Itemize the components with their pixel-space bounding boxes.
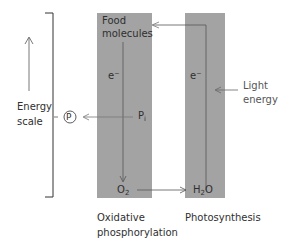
light-energy-label: Light energy [243, 80, 278, 106]
photosynthesis-electron-flow-line [153, 25, 206, 190]
oxygen-subscript: 2 [125, 189, 129, 197]
oxidative-electron-label: e⁻ [108, 70, 119, 82]
phosphate-symbol: P [66, 111, 71, 123]
food-label-line1: Food [102, 15, 153, 27]
oxygen-main: O [117, 184, 125, 195]
food-molecules-label: Food molecules [102, 15, 153, 40]
water-label: H2O [193, 184, 213, 199]
energy-label-line2: scale [17, 116, 52, 128]
pi-subscript: i [144, 115, 146, 123]
oxygen-label: O2 [117, 184, 129, 199]
food-label-line2: molecules [102, 28, 153, 40]
water-h: H [193, 184, 201, 195]
energy-scale-label: Energy scale [17, 101, 52, 128]
water-o: O [205, 184, 213, 195]
oxidative-phosphorylation-caption: Oxidative phosphorylation [97, 212, 178, 239]
oxidative-caption-line2: phosphorylation [97, 227, 178, 239]
photosynthesis-caption: Photosynthesis [185, 212, 261, 224]
energy-label-line1: Energy [17, 101, 52, 113]
light-label-line1: Light [243, 80, 278, 92]
photosynthesis-electron-label: e⁻ [190, 70, 201, 82]
light-label-line2: energy [243, 94, 278, 106]
oxidative-caption-line1: Oxidative [97, 212, 178, 224]
inorganic-phosphate-label: Pi [138, 110, 146, 125]
